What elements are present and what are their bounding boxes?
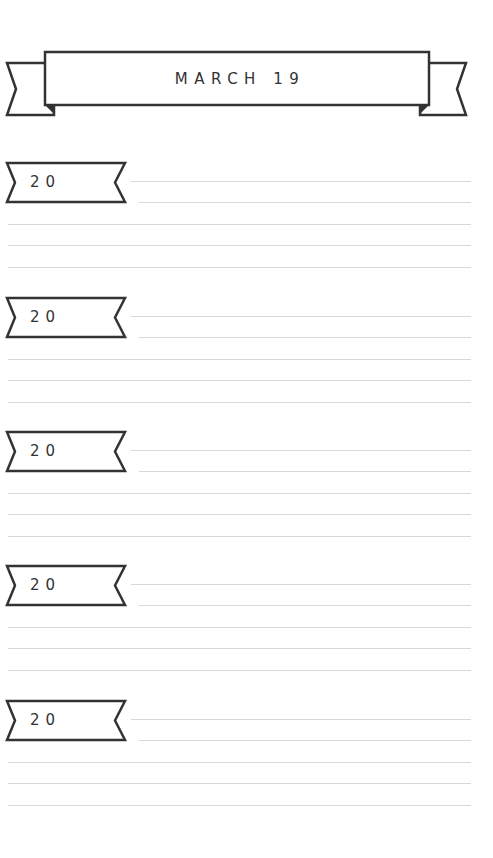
writing-line[interactable] — [8, 627, 471, 628]
year-label: 20 — [30, 565, 90, 605]
writing-line[interactable] — [8, 536, 471, 537]
writing-line[interactable] — [8, 762, 471, 763]
writing-line[interactable] — [8, 380, 471, 381]
entry-section: 20 — [0, 297, 493, 407]
year-label: 20 — [30, 700, 90, 740]
writing-line[interactable] — [131, 450, 471, 451]
writing-line[interactable] — [8, 805, 471, 806]
writing-line[interactable] — [131, 181, 471, 182]
writing-line[interactable] — [8, 359, 471, 360]
entry-section: 20 — [0, 431, 493, 541]
writing-line[interactable] — [8, 493, 471, 494]
page-title: MARCH 19 — [45, 52, 429, 105]
writing-line[interactable] — [8, 648, 471, 649]
year-label: 20 — [30, 297, 90, 337]
writing-line[interactable] — [8, 670, 471, 671]
writing-line[interactable] — [139, 337, 471, 338]
writing-line[interactable] — [139, 202, 471, 203]
writing-line[interactable] — [8, 267, 471, 268]
writing-line[interactable] — [139, 471, 471, 472]
writing-line[interactable] — [139, 605, 471, 606]
year-label: 20 — [30, 162, 90, 202]
writing-line[interactable] — [131, 719, 471, 720]
writing-line[interactable] — [8, 402, 471, 403]
year-label: 20 — [30, 431, 90, 471]
entry-section: 20 — [0, 700, 493, 810]
writing-line[interactable] — [8, 245, 471, 246]
writing-line[interactable] — [8, 783, 471, 784]
entry-section: 20 — [0, 162, 493, 272]
header-banner: MARCH 19 — [0, 0, 493, 130]
entry-section: 20 — [0, 565, 493, 675]
writing-line[interactable] — [131, 316, 471, 317]
writing-line[interactable] — [131, 584, 471, 585]
writing-line[interactable] — [139, 740, 471, 741]
writing-line[interactable] — [8, 514, 471, 515]
writing-line[interactable] — [8, 224, 471, 225]
